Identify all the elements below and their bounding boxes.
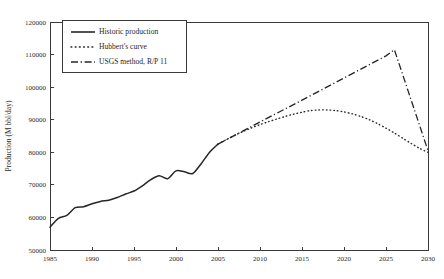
x-axis: 1985199019952000200520102015202020252030 <box>43 247 436 264</box>
series-hubbert-curve <box>218 110 428 152</box>
y-tick-label: 110000 <box>25 51 46 59</box>
x-tick-label: 2010 <box>253 255 268 263</box>
y-tick-label: 60000 <box>29 214 47 222</box>
x-tick-label: 2005 <box>211 255 226 263</box>
y-tick-label: 100000 <box>25 84 47 92</box>
legend-label: USGS method, R/P 11 <box>99 57 167 66</box>
x-tick-label: 2030 <box>421 255 436 263</box>
x-tick-label: 2000 <box>169 255 184 263</box>
legend-label: Hubbert's curve <box>99 42 148 51</box>
figure-container: 5000060000700008000090000100000110000120… <box>0 0 444 279</box>
y-tick-label: 90000 <box>29 116 47 124</box>
x-tick-label: 2020 <box>337 255 352 263</box>
y-tick-label: 120000 <box>25 19 47 27</box>
y-tick-label: 80000 <box>29 149 47 157</box>
series-usgs-method <box>218 50 428 151</box>
y-tick-label: 70000 <box>29 181 47 189</box>
y-axis-title: Production (M bbl/day) <box>4 100 13 171</box>
chart-legend: Historic productionHubbert's curveUSGS m… <box>62 20 186 72</box>
production-forecast-chart: 5000060000700008000090000100000110000120… <box>0 0 444 279</box>
x-tick-label: 1985 <box>43 255 58 263</box>
x-tick-label: 1995 <box>127 255 142 263</box>
y-tick-label: 50000 <box>29 247 47 255</box>
legend-label: Historic production <box>99 27 158 36</box>
data-series-group <box>50 50 428 228</box>
x-tick-label: 1990 <box>85 255 100 263</box>
x-tick-label: 2015 <box>295 255 310 263</box>
series-historic-production <box>50 144 218 227</box>
x-tick-label: 2025 <box>379 255 394 263</box>
